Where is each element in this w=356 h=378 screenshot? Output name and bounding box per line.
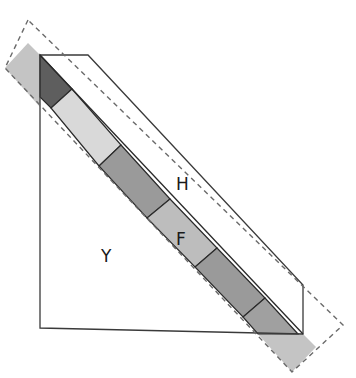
label-f: F xyxy=(176,229,186,249)
strip-extension-top xyxy=(5,43,40,107)
strip-upper-edge xyxy=(40,55,303,334)
label-h: H xyxy=(176,174,189,194)
label-y: Y xyxy=(100,246,112,266)
diagram-canvas: H F Y xyxy=(0,0,356,378)
